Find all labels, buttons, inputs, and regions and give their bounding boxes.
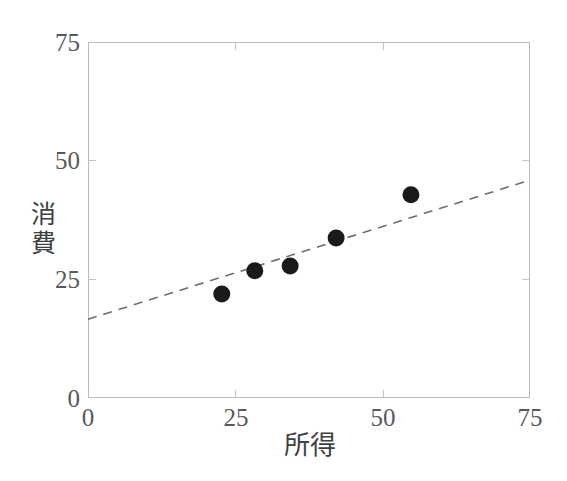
x-tick-label-75: 75 — [505, 405, 555, 430]
x-axis-title: 所得 — [264, 431, 356, 461]
x-tick-label-50: 50 — [358, 405, 408, 430]
scatter-chart: 75 50 25 0 0 25 50 75 消 費 所得 — [0, 0, 567, 481]
x-tick-label-25: 25 — [211, 405, 261, 430]
data-point — [246, 262, 263, 279]
data-point — [328, 230, 345, 247]
data-points-group — [213, 186, 419, 302]
data-point — [213, 286, 230, 303]
y-tick-label-50: 50 — [28, 148, 80, 173]
x-tick-label-0: 0 — [63, 405, 113, 430]
trendline — [88, 180, 530, 319]
y-tick-label-75: 75 — [28, 30, 80, 55]
y-axis-title-char-1: 消 — [26, 200, 60, 229]
data-point — [282, 258, 299, 275]
y-tick-label-25: 25 — [28, 267, 80, 292]
y-axis-title-char-2: 費 — [26, 229, 60, 258]
y-axis-title: 消 費 — [26, 200, 60, 258]
plot-data-layer — [88, 42, 530, 398]
data-point — [402, 186, 419, 203]
trendline-group — [88, 180, 530, 319]
